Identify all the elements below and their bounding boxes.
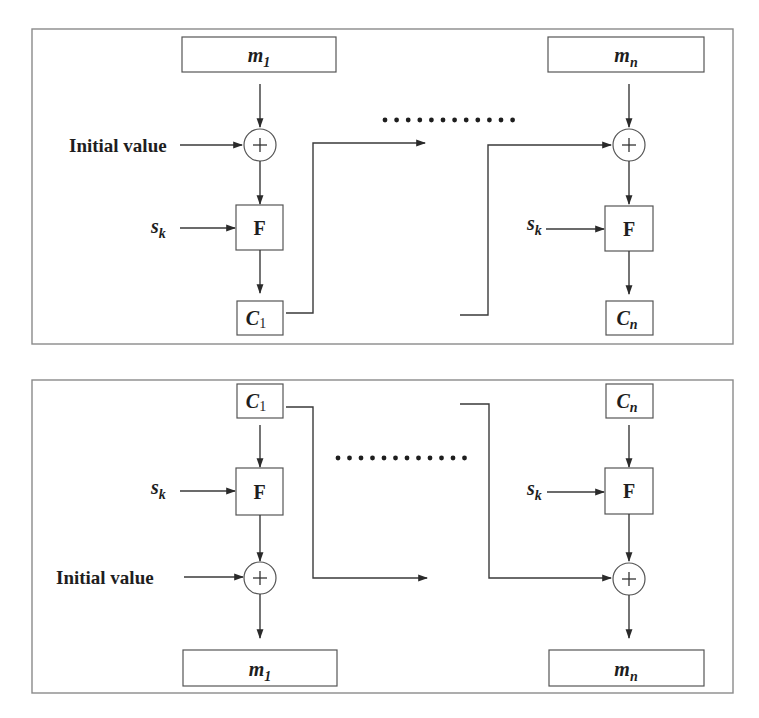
- enc-initial-value-label: Initial value: [69, 135, 167, 156]
- svg-text:F: F: [623, 218, 635, 240]
- dec-input-cn: Cn: [606, 384, 653, 418]
- enc-mn-base: m: [614, 44, 630, 66]
- svg-text:F: F: [623, 480, 635, 502]
- dec-f-box-1: F: [236, 468, 283, 515]
- enc-xor-1-icon: [244, 129, 276, 161]
- enc-output-c1: C1: [237, 301, 283, 335]
- cbc-diagram: m1 mn Initial value sk F: [0, 0, 759, 718]
- dec-xor-n-icon: [613, 563, 645, 595]
- decryption-panel-border: [32, 380, 733, 693]
- svg-text:F: F: [253, 481, 265, 503]
- enc-input-mn: mn: [548, 37, 704, 72]
- enc-f-box-1: F: [236, 205, 283, 250]
- enc-input-m1: m1: [182, 37, 336, 72]
- dec-f-box-n: F: [605, 468, 653, 514]
- dec-output-mn: mn: [549, 650, 704, 686]
- svg-text:F: F: [253, 217, 265, 239]
- dec-output-m1: m1: [183, 650, 337, 686]
- dec-xor-1-icon: [244, 562, 276, 594]
- dec-initial-value-label: Initial value: [56, 567, 154, 588]
- enc-output-cn: Cn: [606, 301, 653, 335]
- enc-xor-n-icon: [613, 129, 645, 161]
- encryption-panel: m1 mn Initial value sk F: [32, 29, 733, 344]
- dec-input-c1: C1: [237, 384, 283, 418]
- decryption-panel: C1 Cn sk F Initial value: [32, 380, 733, 693]
- enc-f-box-n: F: [605, 206, 653, 251]
- enc-m1-base: m: [248, 44, 264, 66]
- enc-mn-sub: n: [630, 55, 638, 70]
- enc-m1-sub: 1: [263, 55, 270, 70]
- encryption-panel-border: [32, 29, 733, 344]
